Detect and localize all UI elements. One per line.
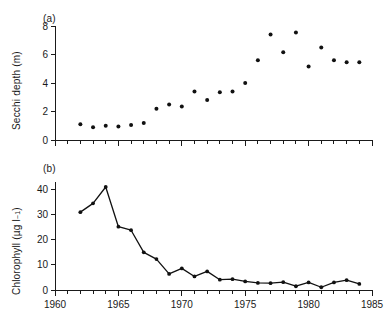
data-point-marker bbox=[269, 281, 273, 285]
data-point-marker bbox=[243, 81, 247, 85]
data-point-marker bbox=[256, 58, 260, 62]
data-point-marker bbox=[256, 281, 260, 285]
data-point-marker bbox=[104, 124, 108, 128]
y-tick-label: 0 bbox=[42, 135, 48, 146]
data-point-marker bbox=[192, 90, 196, 94]
data-point-marker bbox=[117, 225, 121, 229]
data-point-marker bbox=[307, 281, 311, 285]
figure-container: (a) Secchi depth (m) 02468 (b) Chlorophy… bbox=[0, 0, 384, 323]
data-point-marker bbox=[129, 228, 133, 232]
data-point-marker bbox=[78, 210, 82, 214]
x-tick-label: 1980 bbox=[297, 299, 320, 310]
data-point-marker bbox=[205, 98, 209, 102]
y-tick-label: 10 bbox=[37, 259, 49, 270]
y-tick-label: 4 bbox=[42, 78, 48, 89]
data-point-marker bbox=[91, 201, 95, 205]
y-tick-label: 40 bbox=[37, 184, 49, 195]
data-point-marker bbox=[332, 58, 336, 62]
data-point-marker bbox=[193, 275, 197, 279]
data-point-marker bbox=[243, 280, 247, 284]
x-tick-label: 1960 bbox=[44, 299, 67, 310]
data-point-marker bbox=[142, 121, 146, 125]
data-point-marker bbox=[345, 278, 349, 282]
data-point-marker bbox=[218, 90, 222, 94]
data-point-marker bbox=[91, 125, 95, 129]
data-point-marker bbox=[294, 284, 298, 288]
x-tick-label: 1970 bbox=[171, 299, 194, 310]
data-point-marker bbox=[294, 30, 298, 34]
data-point-marker bbox=[142, 250, 146, 254]
data-point-marker bbox=[155, 257, 159, 261]
data-point-marker bbox=[357, 282, 361, 286]
data-point-marker bbox=[205, 270, 209, 274]
panel-a-secchi-depth: (a) Secchi depth (m) 02468 bbox=[0, 0, 384, 160]
data-point-marker bbox=[78, 122, 82, 126]
series-line bbox=[80, 187, 359, 287]
data-point-marker bbox=[180, 267, 184, 271]
panel-a-plot-area: 02468 bbox=[0, 0, 384, 160]
y-tick-label: 8 bbox=[42, 21, 48, 32]
data-point-marker bbox=[269, 33, 273, 37]
x-tick-label: 1975 bbox=[234, 299, 257, 310]
y-tick-label: 6 bbox=[42, 49, 48, 60]
data-point-marker bbox=[231, 277, 235, 281]
x-tick-label: 1985 bbox=[361, 299, 384, 310]
panel-b-chlorophyll: (b) Chlorophyll (µg l−1) 010203040196019… bbox=[0, 160, 384, 323]
x-tick-label: 1965 bbox=[107, 299, 130, 310]
panel-b-plot-area: 010203040196019651970197519801985 bbox=[0, 160, 384, 323]
data-point-marker bbox=[281, 50, 285, 54]
data-point-marker bbox=[319, 45, 323, 49]
data-point-marker bbox=[116, 124, 120, 128]
data-point-marker bbox=[307, 65, 311, 69]
data-point-marker bbox=[167, 102, 171, 106]
data-point-marker bbox=[357, 60, 361, 64]
data-point-marker bbox=[218, 278, 222, 282]
data-point-marker bbox=[129, 123, 133, 127]
data-point-marker bbox=[332, 281, 336, 285]
y-tick-label: 30 bbox=[37, 209, 49, 220]
data-point-marker bbox=[154, 107, 158, 111]
data-point-marker bbox=[167, 272, 171, 276]
data-point-marker bbox=[104, 185, 108, 189]
data-point-marker bbox=[281, 280, 285, 284]
data-point-marker bbox=[231, 90, 235, 94]
data-point-marker bbox=[345, 60, 349, 64]
data-point-marker bbox=[319, 285, 323, 289]
y-tick-label: 2 bbox=[42, 106, 48, 117]
y-tick-label: 0 bbox=[42, 285, 48, 296]
y-tick-label: 20 bbox=[37, 234, 49, 245]
data-point-marker bbox=[180, 105, 184, 109]
